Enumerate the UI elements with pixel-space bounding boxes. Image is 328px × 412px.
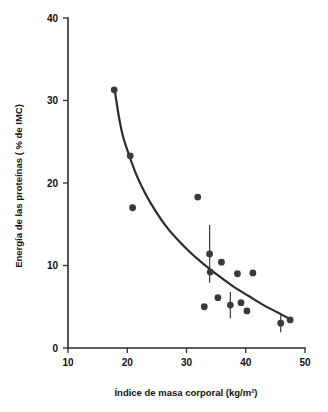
axes xyxy=(68,18,305,348)
scatter-plot: 1020304050 010203040 Índice de masa corp… xyxy=(0,0,328,412)
data-point xyxy=(234,270,241,277)
data-point xyxy=(111,86,118,93)
data-point xyxy=(194,194,201,201)
data-points xyxy=(111,86,294,326)
x-tick-label: 10 xyxy=(62,357,74,368)
data-point xyxy=(227,302,234,309)
x-tick-label: 50 xyxy=(299,357,311,368)
y-tick-label: 20 xyxy=(47,178,59,189)
y-tick-label: 30 xyxy=(47,95,59,106)
data-point xyxy=(201,303,208,310)
x-tick-label: 30 xyxy=(181,357,193,368)
fit-curve xyxy=(115,91,290,320)
y-tick-labels: 010203040 xyxy=(47,13,59,354)
data-point xyxy=(206,251,213,258)
data-point xyxy=(207,269,214,276)
x-tick-labels: 1020304050 xyxy=(62,357,311,368)
data-point xyxy=(244,307,251,314)
chart-figure: 1020304050 010203040 Índice de masa corp… xyxy=(0,0,328,412)
data-point xyxy=(249,270,256,277)
axis-spine xyxy=(68,18,305,348)
data-point xyxy=(238,299,245,306)
data-point xyxy=(277,320,284,327)
y-tick-label: 40 xyxy=(47,13,59,24)
data-point xyxy=(129,204,136,211)
x-axis-title: Índice de masa corporal (kg/m²) xyxy=(114,387,257,398)
trend-curve xyxy=(115,91,290,320)
x-tick-label: 20 xyxy=(122,357,134,368)
x-tick-label: 40 xyxy=(240,357,252,368)
y-tick-label: 0 xyxy=(52,343,58,354)
y-tick-label: 10 xyxy=(47,260,59,271)
y-axis-title: Energía de las proteínas ( % de IMC) xyxy=(13,104,24,268)
error-bars xyxy=(210,225,281,332)
data-point xyxy=(127,152,134,159)
data-point xyxy=(215,294,222,301)
data-point xyxy=(287,317,294,324)
data-point xyxy=(218,259,225,266)
tick-marks xyxy=(63,18,305,353)
